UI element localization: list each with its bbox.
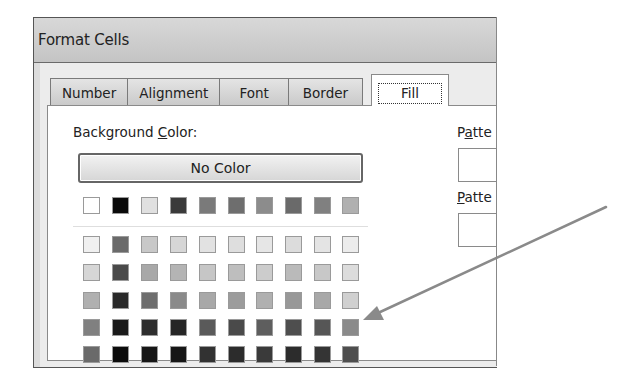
annotation-arrow-icon [0,0,640,383]
focus-rect: Fill [378,83,442,104]
tab-label: Fill [401,85,419,101]
tab-fill[interactable]: Fill [371,74,449,106]
